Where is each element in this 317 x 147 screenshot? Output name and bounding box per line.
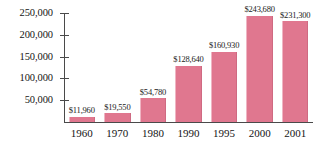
y-axis-tick-mark xyxy=(60,57,69,58)
y-axis-tick-label: 150,000 xyxy=(20,51,53,62)
bar xyxy=(140,98,166,122)
bar-group: $19,550 xyxy=(104,0,130,122)
x-axis-tick-label: 1980 xyxy=(142,128,164,139)
bar-value-label: $128,640 xyxy=(173,55,203,64)
y-axis-tick-label: 200,000 xyxy=(20,30,53,41)
x-axis-tick-label: 2000 xyxy=(249,128,271,139)
bar xyxy=(211,52,237,122)
bar xyxy=(69,117,95,122)
x-axis-tick-label: 2001 xyxy=(284,128,306,139)
y-axis-tick-mark xyxy=(60,35,69,36)
x-axis-line xyxy=(64,122,313,123)
x-axis-tick-label: 1960 xyxy=(71,128,93,139)
bar xyxy=(175,66,201,122)
x-axis: 1960197019801990199520002001 xyxy=(64,126,313,147)
bar-chart: 50,000100,000150,000200,000250,000 $11,9… xyxy=(0,0,317,147)
y-axis-tick-label: 50,000 xyxy=(25,95,53,106)
y-axis-tick-label: 250,000 xyxy=(20,8,53,19)
bar xyxy=(246,16,272,122)
bar-group: $243,680 xyxy=(246,0,272,122)
y-axis-tick-mark xyxy=(60,13,69,14)
bar-group: $231,300 xyxy=(282,0,308,122)
bar-value-label: $231,300 xyxy=(280,11,310,20)
y-axis-tick-mark xyxy=(60,78,69,79)
bar-value-label: $54,780 xyxy=(140,88,166,97)
x-axis-tick-label: 1970 xyxy=(106,128,128,139)
plot-area: $11,960$19,550$54,780$128,640$160,930$24… xyxy=(64,0,313,122)
bar-value-label: $243,680 xyxy=(244,5,274,14)
x-axis-tick-label: 1995 xyxy=(213,128,235,139)
x-axis-tick-label: 1990 xyxy=(178,128,200,139)
bar-group: $128,640 xyxy=(175,0,201,122)
bar-value-label: $19,550 xyxy=(104,103,130,112)
y-axis-tick-mark xyxy=(60,100,69,101)
bar xyxy=(104,113,130,122)
bar-group: $11,960 xyxy=(69,0,95,122)
bar-group: $54,780 xyxy=(140,0,166,122)
bar-group: $160,930 xyxy=(211,0,237,122)
bar-value-label: $11,960 xyxy=(69,106,95,115)
bar xyxy=(282,21,308,122)
y-axis-tick-label: 100,000 xyxy=(20,73,53,84)
bar-value-label: $160,930 xyxy=(209,41,239,50)
y-axis: 50,000100,000150,000200,000250,000 xyxy=(0,0,62,147)
